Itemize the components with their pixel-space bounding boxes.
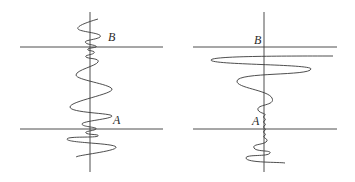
right-label-b: B — [254, 33, 262, 47]
right-label-a: A — [251, 114, 260, 128]
diagram-canvas: B A B A — [0, 0, 355, 182]
left-label-a: A — [112, 113, 121, 127]
left-label-b: B — [108, 30, 116, 44]
left-panel: B A — [20, 12, 163, 172]
right-wave-curve — [211, 56, 333, 163]
right-panel: B A — [193, 12, 337, 172]
